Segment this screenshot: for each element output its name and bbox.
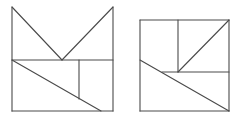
right-figure <box>140 20 229 111</box>
line-segment <box>62 7 113 60</box>
left-figure <box>12 7 113 111</box>
line-segment <box>178 20 229 72</box>
line-segment <box>12 60 101 111</box>
line-segment <box>140 60 229 111</box>
diagram-canvas <box>0 0 238 123</box>
line-segment <box>12 7 62 60</box>
